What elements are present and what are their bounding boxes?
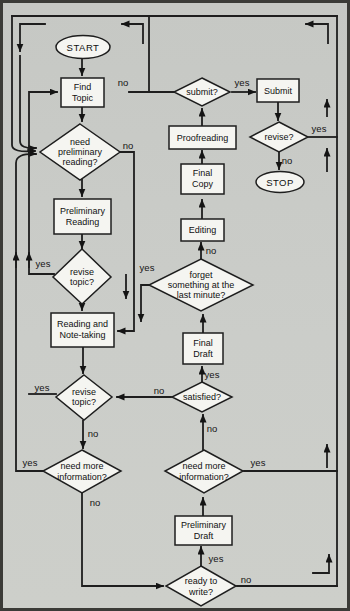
node-submit: Submit [257,79,299,102]
forget-line1: forget [189,270,213,280]
edge-top-stub-riser [20,56,36,148]
node-submit-question: submit? [174,78,230,106]
node-proofreading: Proofreading [169,126,236,149]
label-forget-yes: yes [140,262,155,273]
edge-needprelim-no-bypass [118,152,134,331]
final-copy-line1: Final [193,168,213,178]
need-prelim-line1: need [70,137,90,147]
stop-label: STOP [266,177,294,188]
node-need-more-info-left: need more information? [43,450,121,493]
satisfied-label: satisfied? [183,392,221,402]
node-ready-to-write: ready to write? [166,566,236,606]
ready-line1: ready to [185,576,218,586]
node-forget-something: forget something at the last minute? [149,259,253,311]
label-submitq-no: no [118,77,129,88]
editing-label: Editing [189,225,217,235]
prelim-reading-line2: Reading [66,217,100,227]
label-needinfo-right-no: no [207,423,218,434]
label-needinfo-left-no: no [90,497,101,508]
submitq-label: submit? [186,87,218,97]
node-satisfied: satisfied? [172,382,232,412]
start-label: START [67,42,100,53]
ready-line2: write? [188,587,213,597]
label-reviseq-no: no [282,155,293,166]
label-satisfied-no: no [154,385,165,396]
node-need-more-info-right: need more information? [165,450,243,493]
node-revise-topic-1: revise topic? [53,249,111,304]
label-revise1-yes: yes [36,258,51,269]
submit-label: Submit [264,86,293,96]
reading-line1: Reading and [57,319,108,329]
node-editing: Editing [181,219,224,241]
flowchart-page: START Find Topic need preliminary readin… [0,0,350,611]
reading-line2: Note-taking [59,330,105,340]
node-preliminary-draft: Preliminary Draft [175,516,232,545]
flowchart-canvas: START Find Topic need preliminary readin… [3,3,347,608]
need-prelim-line3: reading? [62,157,97,167]
indicator-topright-corner [306,24,328,43]
edge-needinfo-left-yes-riser [16,154,44,471]
find-topic-line1: Find [74,82,92,92]
edge-left-highway-to-need-prelim [12,16,35,151]
needinfo-left-line1: need more [60,461,103,471]
label-forget-no: no [206,245,217,256]
edge-revise1-yes-riser [29,92,57,274]
final-draft-line2: Draft [193,349,213,359]
node-revise-topic-2: revise topic? [56,375,112,420]
node-find-topic: Find Topic [61,78,104,107]
label-needinfo-left-yes: yes [23,457,38,468]
node-reading-note-taking: Reading and Note-taking [51,313,114,347]
label-submitq-yes: yes [235,77,250,88]
forget-line3: last minute? [177,290,226,300]
needinfo-right-line1: need more [182,461,225,471]
label-revise2-no: no [88,428,99,439]
edge-forget-yes-return [141,285,149,321]
needinfo-left-line2: information? [57,472,107,482]
reviseq-label: revise? [264,132,293,142]
indicator-topleft-corner [20,24,45,51]
final-copy-line2: Copy [192,179,214,189]
need-prelim-line2: preliminary [58,147,103,157]
proofreading-label: Proofreading [177,133,229,143]
find-topic-line2: Topic [72,93,94,103]
label-needprelim-no: no [123,140,134,151]
label-revise2-yes: yes [35,382,50,393]
label-ready-no: no [241,574,252,585]
prelim-reading-line1: Preliminary [60,206,106,216]
label-satisfied-yes: yes [205,369,220,380]
label-needinfo-right-yes: yes [251,457,266,468]
revise1-line2: topic? [70,277,94,287]
node-preliminary-reading: Preliminary Reading [54,199,111,234]
node-final-draft: Final Draft [183,333,223,364]
node-revise-question: revise? [250,122,308,152]
prelim-draft-line1: Preliminary [181,520,227,530]
node-final-copy: Final Copy [181,164,224,194]
forget-line2: something at the [168,280,235,290]
label-ready-yes: yes [209,553,224,564]
revise2-line2: topic? [72,397,96,407]
prelim-draft-line2: Draft [194,531,214,541]
indicator-topcenter-corner [122,24,143,43]
node-start: START [56,36,110,59]
needinfo-right-line2: information? [179,472,229,482]
final-draft-line1: Final [193,338,213,348]
node-need-preliminary-reading: need preliminary reading? [40,124,120,180]
node-stop: STOP [256,172,304,193]
indicator-bottomright-corner [313,555,329,573]
label-reviseq-yes: yes [312,123,327,134]
revise1-line1: revise [70,267,94,277]
revise2-line1: revise [72,387,96,397]
